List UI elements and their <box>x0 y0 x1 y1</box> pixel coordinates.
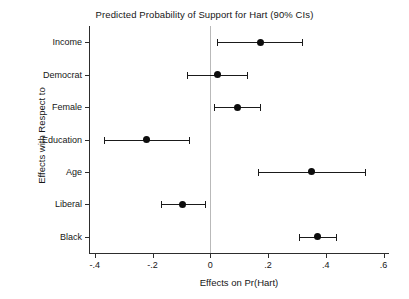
ci-cap-high <box>365 169 366 176</box>
ci-cap-high <box>205 201 206 208</box>
data-point-age <box>308 168 315 175</box>
x-axis-spine <box>89 253 389 254</box>
y-tick-mark <box>85 107 89 108</box>
zero-reference-line <box>210 26 211 253</box>
y-tick-label-education: Education <box>42 135 82 145</box>
ci-cap-low <box>258 169 259 176</box>
x-tick-mark <box>326 254 327 258</box>
data-point-black <box>314 233 321 240</box>
x-tick-label: .4 <box>322 260 330 270</box>
ci-cap-low <box>217 39 218 46</box>
ci-cap-low <box>214 104 215 111</box>
x-tick-label: .2 <box>264 260 272 270</box>
y-tick-mark <box>85 172 89 173</box>
ci-cap-low <box>299 234 300 241</box>
ci-cap-low <box>104 137 105 144</box>
y-axis-spine <box>89 26 90 253</box>
ci-cap-high <box>336 234 337 241</box>
chart-title: Predicted Probability of Support for Har… <box>0 9 409 20</box>
y-tick-mark <box>85 204 89 205</box>
x-tick-mark <box>153 254 154 258</box>
data-point-income <box>257 39 264 46</box>
x-tick-label: -.2 <box>147 260 158 270</box>
ci-cap-high <box>247 72 248 79</box>
data-point-liberal <box>179 201 186 208</box>
x-tick-mark <box>268 254 269 258</box>
ci-cap-low <box>161 201 162 208</box>
x-tick-mark <box>95 254 96 258</box>
x-tick-mark <box>384 254 385 258</box>
y-tick-mark <box>85 140 89 141</box>
ci-cap-high <box>302 39 303 46</box>
x-tick-mark <box>210 254 211 258</box>
data-point-democrat <box>214 71 221 78</box>
y-tick-mark <box>85 237 89 238</box>
y-tick-label-black: Black <box>60 232 82 242</box>
ci-cap-low <box>187 72 188 79</box>
x-tick-label: 0 <box>208 260 213 270</box>
data-point-education <box>143 136 150 143</box>
y-tick-label-age: Age <box>66 167 82 177</box>
y-tick-mark <box>85 42 89 43</box>
y-tick-label-female: Female <box>52 102 82 112</box>
y-tick-label-democrat: Democrat <box>43 70 82 80</box>
y-tick-label-liberal: Liberal <box>55 199 82 209</box>
x-axis-title: Effects on Pr(Hart) <box>89 277 389 288</box>
data-point-female <box>234 104 241 111</box>
chart-page: Predicted Probability of Support for Har… <box>0 0 409 299</box>
plot-area: -.4-.20.2.4.6 IncomeDemocratFemaleEducat… <box>89 26 389 253</box>
y-tick-label-income: Income <box>52 37 82 47</box>
x-tick-label: -.4 <box>90 260 101 270</box>
y-tick-mark <box>85 75 89 76</box>
y-axis-title: Effects with Respect to <box>36 41 47 231</box>
ci-cap-high <box>189 137 190 144</box>
x-tick-label: .6 <box>380 260 388 270</box>
ci-cap-high <box>260 104 261 111</box>
